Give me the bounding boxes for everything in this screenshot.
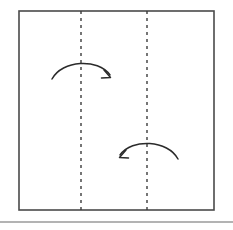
- diagram-canvas: [0, 0, 233, 230]
- paper-sheet: [19, 11, 214, 210]
- fold-diagram-figure: [0, 0, 233, 230]
